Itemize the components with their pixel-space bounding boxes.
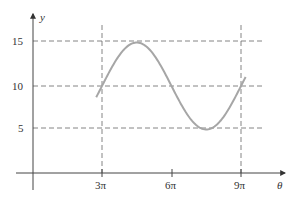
horizontal-gridlines [33, 41, 262, 128]
x-tick-3pi: 3π [95, 179, 107, 191]
x-axis-label: θ [277, 179, 283, 191]
chart-canvas: y θ 15 10 5 3π 6π 9π [0, 0, 298, 202]
y-axis-label: y [39, 11, 45, 23]
y-tick-10: 10 [12, 80, 24, 92]
vertical-gridlines [102, 25, 241, 173]
x-tick-9pi: 9π [234, 179, 246, 191]
sine-curve [96, 43, 245, 130]
x-tick-6pi: 6π [165, 179, 177, 191]
y-tick-15: 15 [12, 35, 24, 47]
y-tick-5: 5 [18, 122, 24, 134]
